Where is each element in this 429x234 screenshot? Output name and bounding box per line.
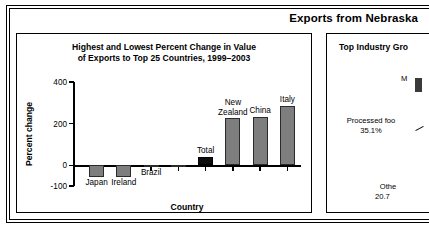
pie-leader-line-processed: [415, 126, 423, 131]
x-axis-tick: [178, 167, 179, 171]
pie-label-processed-foods-text: Processed foo: [347, 116, 396, 125]
y-axis-tick: [69, 81, 74, 82]
bar-china: [253, 117, 268, 165]
x-axis-tick: [287, 167, 288, 171]
y-axis-tick: [69, 165, 74, 166]
bar-label-china: China: [237, 106, 283, 116]
x-axis-tick: [205, 167, 206, 171]
bar-label-ireland: Ireland: [101, 178, 147, 188]
y-axis-tick-label: 200: [53, 119, 67, 128]
bar-label-total: Total: [183, 146, 229, 156]
pie-chart-title: Top Industry Gro: [339, 42, 408, 52]
bar-label-brazil: Brazil: [128, 168, 174, 178]
x-axis-tick: [259, 167, 260, 171]
bar-chart-title-line-2: of Exports to Top 25 Countries, 1999–200…: [17, 53, 311, 64]
y-axis-tick-label: -100: [51, 182, 67, 191]
bar-chart-title-line-1: Highest and Lowest Percent Change in Val…: [17, 42, 311, 53]
y-axis-line: [73, 82, 75, 186]
bar-total: [198, 157, 213, 165]
page-title: Exports from Nebraska: [0, 12, 418, 28]
bar-italy: [280, 106, 295, 166]
x-axis-title: Country: [73, 202, 301, 212]
bar-new-zealand: [225, 118, 240, 165]
pie-chart-panel: Top Industry Gro M Processed foo 35.1% O…: [326, 33, 429, 213]
pie-label-other-value: 20.7: [375, 192, 401, 202]
pie-label-other: Othe 20.7: [375, 182, 401, 201]
screenshot-root: Exports from Nebraska Highest and Lowest…: [0, 0, 429, 234]
bar-unlabeled-3: [171, 165, 186, 167]
pie-label-processed-foods: Processed foo 35.1%: [333, 116, 409, 135]
pie-label-processed-foods-value: 35.1%: [333, 126, 409, 136]
y-axis-tick: [69, 123, 74, 124]
y-axis-tick-label: 0: [62, 161, 67, 170]
x-axis-tick: [232, 167, 233, 171]
y-axis-tick-label: 400: [53, 78, 67, 87]
pie-label-machinery-text: M: [401, 74, 407, 83]
bar-label-italy: Italy: [264, 95, 310, 105]
bar-chart-panel: Highest and Lowest Percent Change in Val…: [16, 33, 312, 213]
bar-chart-title: Highest and Lowest Percent Change in Val…: [17, 42, 311, 64]
pie-wedge-machinery: [415, 78, 422, 92]
bar-japan: [89, 165, 104, 177]
pie-label-other-text: Othe: [380, 182, 396, 191]
y-axis-title: Percent change: [24, 102, 34, 166]
bar-brazil: [144, 165, 159, 167]
x-axis-zero-line: [73, 165, 301, 167]
bar-chart-plot-area: Percent change Country 4002000-100JapanI…: [73, 82, 301, 186]
pie-label-machinery: M: [401, 74, 407, 84]
